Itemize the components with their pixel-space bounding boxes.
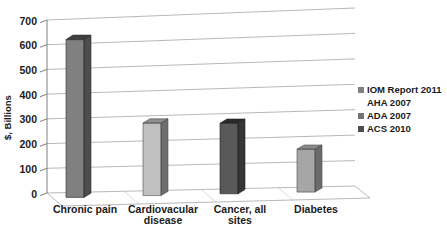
bar-front-face [66,40,84,198]
y-axis [40,20,47,196]
y-tick-label-400: 400 [19,89,37,101]
x-label-diabetes: Diabetes [294,203,338,215]
x-axis-labels: Chronic pain Cardiovacular disease Cance… [53,203,338,226]
legend-swatch-icon [358,87,364,93]
bar-front-face [297,149,315,192]
legend-label: AHA 2007 [367,96,411,109]
bar-side-face [161,119,168,196]
y-tick-label-200: 200 [19,138,37,150]
chart-legend: IOM Report 2011 AHA 2007 ADA 2007 ACS 20… [358,83,447,135]
y-tick-label-300: 300 [19,113,37,125]
y-tick-label-600: 600 [19,39,37,51]
bar-front-face [220,123,238,194]
legend-item-iom-report-2011: IOM Report 2011 [358,83,447,96]
bar-chart: 700 600 500 400 300 200 100 0 $, Billion… [0,0,447,226]
y-tick-labels: 700 600 500 400 300 200 100 0 [19,15,37,200]
y-tick-label-100: 100 [19,163,37,175]
y-tick-label-500: 500 [19,64,37,76]
bar-front-face [143,123,161,196]
legend-label: ADA 2007 [367,109,411,122]
legend-item-aha-2007: AHA 2007 [358,96,447,109]
x-label-cancer-all-sites-line2: sites [228,214,252,226]
y-axis-title-text: $, Billions [2,95,13,140]
legend-swatch-icon [358,126,364,132]
bar-side-face [238,119,245,194]
y-tick-label-0: 0 [31,188,37,200]
legend-label: IOM Report 2011 [367,83,441,96]
bar-side-face [84,35,91,197]
legend-swatch-icon [358,113,364,119]
legend-swatch-icon [358,100,364,106]
bar-cardiovacular-disease [143,119,168,196]
bar-side-face [315,145,322,192]
x-label-cardiovacular-disease-line2: disease [144,214,183,226]
y-tick-label-700: 700 [19,15,37,27]
y-axis-title: $, Billions [2,95,13,140]
bar-diabetes [297,145,322,192]
bar-cancer-all-sites [220,119,245,194]
legend-item-acs-2010: ACS 2010 [358,122,447,135]
bar-chronic-pain [66,35,91,197]
legend-label: ACS 2010 [367,122,411,135]
legend-item-ada-2007: ADA 2007 [358,109,447,122]
x-label-chronic-pain: Chronic pain [53,203,117,215]
